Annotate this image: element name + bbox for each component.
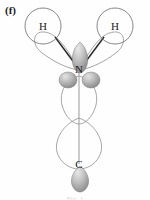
caption-partial: Fig. 1 — [0, 194, 150, 200]
atom-label-h-right: H — [111, 20, 119, 32]
atom-label-c-bottom: C — [75, 158, 82, 170]
p-lobe-n-down-right-icon — [82, 72, 100, 88]
atom-label-n-center: N — [75, 63, 83, 75]
figure-panel: (f) — [0, 0, 150, 200]
atom-label-h-left: H — [39, 20, 47, 32]
p-lobe-c-down-icon — [71, 166, 88, 192]
orbital-diagram: H H N C — [0, 0, 150, 200]
